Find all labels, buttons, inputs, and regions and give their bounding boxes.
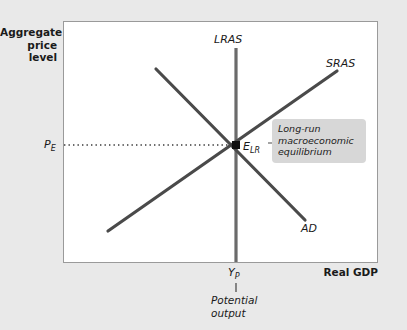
potential-output-annotation: Potential output (211, 294, 257, 319)
y-axis-label-line-3: level (0, 51, 57, 64)
ad-label: AD (301, 222, 317, 235)
sras-label: SRAS (326, 57, 355, 70)
potential-output-line-1: Potential (211, 294, 257, 307)
equilibrium-symbol: E (243, 140, 250, 153)
y-axis-label: Aggregate price level (0, 26, 57, 64)
callout-line-3: equilibrium (278, 146, 361, 158)
potential-output-line-2: output (211, 307, 257, 320)
potential-output-symbol: Y (228, 266, 235, 279)
potential-output-subscript: P (235, 272, 240, 281)
aggregate-supply-demand-figure: Aggregate price level Real GDP LRAS SRAS… (0, 0, 407, 330)
callout-line-2: macroeconomic (278, 135, 361, 147)
price-equilibrium-subscript: E (51, 144, 56, 153)
callout-line-1: Long-run (278, 123, 361, 135)
x-axis-label: Real GDP (300, 266, 378, 278)
y-axis-label-line-2: price (0, 39, 57, 52)
price-equilibrium-symbol: P (44, 138, 51, 151)
y-axis-label-line-1: Aggregate (0, 26, 57, 39)
equilibrium-subscript: LR (250, 146, 260, 155)
equilibrium-point-label: ELR (243, 140, 260, 155)
lras-label: LRAS (214, 33, 242, 46)
potential-output-axis-label: YP (228, 266, 240, 281)
equilibrium-callout-box: Long-run macroeconomic equilibrium (272, 119, 366, 163)
price-equilibrium-label: PE (44, 138, 56, 153)
